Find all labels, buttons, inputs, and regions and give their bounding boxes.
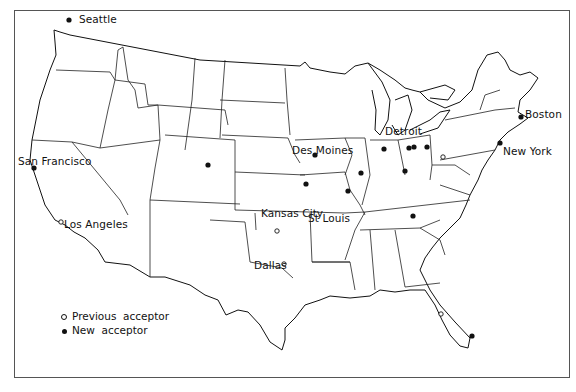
- legend: Previous acceptor New acceptor: [60, 309, 169, 337]
- city-label-new-york: New York: [503, 146, 552, 157]
- new-acceptor-marker: [469, 333, 474, 338]
- city-label-boston: Boston: [525, 109, 562, 120]
- state-boundaries: [32, 47, 515, 290]
- new-acceptor-marker: [358, 170, 363, 175]
- city-label-dallas: Dallas: [254, 260, 287, 271]
- new-acceptor-marker: [66, 17, 71, 22]
- legend-item-new: New acceptor: [60, 323, 169, 337]
- legend-label-new: New acceptor: [72, 324, 148, 336]
- legend-item-previous: Previous acceptor: [60, 309, 169, 323]
- city-label-des-moines: Des Moines: [292, 145, 353, 156]
- new-acceptor-marker: [381, 146, 386, 151]
- new-acceptor-marker: [303, 181, 308, 186]
- previous-acceptor-marker: [275, 229, 279, 233]
- new-acceptor-marker: [402, 168, 407, 173]
- city-label-los-angeles: Los Angeles: [64, 219, 128, 230]
- us-outline: [30, 30, 538, 350]
- new-acceptor-marker: [205, 162, 210, 167]
- legend-label-previous: Previous acceptor: [72, 310, 169, 322]
- new-acceptor-marker: [410, 213, 415, 218]
- filled-circle-icon: [62, 329, 67, 334]
- markers: [31, 17, 523, 338]
- previous-acceptor-marker: [441, 155, 445, 159]
- new-acceptor-marker: [497, 140, 502, 145]
- previous-acceptor-marker: [59, 220, 63, 224]
- previous-acceptor-marker: [439, 312, 443, 316]
- city-label-detroit: Detroit: [385, 126, 422, 137]
- hollow-circle-icon: [61, 314, 67, 320]
- new-acceptor-marker: [345, 188, 350, 193]
- city-label-st-louis: St Louis: [308, 213, 350, 224]
- new-acceptor-marker: [424, 144, 429, 149]
- city-label-san-francisco: San Francisco: [18, 156, 91, 167]
- new-acceptor-marker: [406, 145, 411, 150]
- new-acceptor-marker: [411, 144, 416, 149]
- city-label-seattle: Seattle: [79, 14, 117, 25]
- new-acceptor-marker: [518, 114, 523, 119]
